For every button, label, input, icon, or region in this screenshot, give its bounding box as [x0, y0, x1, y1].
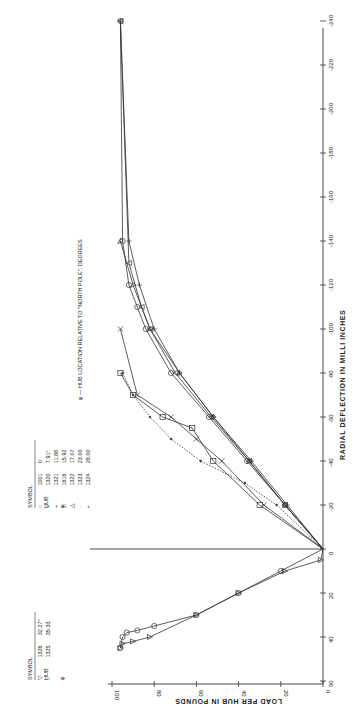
x-tick-label: 60 — [328, 680, 334, 687]
legend-cell: 23.00 — [77, 449, 83, 463]
legend-cell: ⌐ — [85, 505, 91, 508]
x-tick-label: -180 — [328, 146, 334, 159]
series-curve — [120, 549, 323, 648]
dot-marker — [170, 438, 172, 440]
legend-cell: 1321 — [53, 473, 59, 485]
x-tick-label: -40 — [328, 458, 334, 467]
axes — [90, 28, 323, 684]
y-tick-label: 100 — [114, 690, 120, 701]
dot-marker — [244, 482, 246, 484]
x-tick-label: -240 — [328, 14, 334, 27]
legend-cell: 35.33 — [45, 621, 51, 635]
x-tick-label: 20 — [328, 592, 334, 599]
legend-positive-side: SYMBOLHUBφ▽132632.27°○132535.33 — [27, 612, 65, 680]
x-tick-label: 0 — [328, 551, 334, 555]
legend-negative-side: SYMBOLHUBφ○10010×13207.91°+132111.88□161… — [27, 440, 91, 508]
series-curve — [120, 21, 323, 549]
legend-cell: 7.91° — [45, 450, 51, 463]
legend-cell: △ — [69, 503, 75, 508]
x-marker — [118, 326, 123, 331]
x-tick-label: -100 — [328, 322, 334, 335]
series-curve — [123, 373, 323, 549]
x-tick-label: -60 — [328, 414, 334, 423]
y-tick-label: 80 — [156, 690, 162, 697]
series-curve — [120, 549, 323, 648]
x-tick-label: -220 — [328, 58, 334, 71]
legend-cell: ○ — [37, 505, 43, 508]
x-tick-label: -80 — [328, 370, 334, 379]
x-tick-label: -140 — [328, 234, 334, 247]
plus-marker — [126, 238, 131, 243]
legend-cell: 1323 — [77, 473, 83, 485]
legend-cell: 1326 — [37, 645, 43, 657]
x-marker — [194, 436, 199, 441]
legend-cell: 1616 — [61, 473, 67, 485]
y-tick-label: 60 — [198, 690, 204, 697]
legend-cell: 1320 — [45, 473, 51, 485]
legend-cell: 1001 — [37, 473, 43, 485]
dot-marker — [132, 394, 134, 396]
legend-cell: + — [53, 505, 59, 508]
dot-marker — [276, 504, 278, 506]
legend-header: SYMBOL — [27, 657, 33, 680]
y-axis-label: LOAD PER HUB IN POUNDS — [175, 698, 282, 705]
phi-annotation: φ — HUB LOCATION RELATIVE TO "NORTH POLE… — [77, 239, 83, 400]
dot-marker — [122, 372, 124, 374]
load-deflection-chart: -240-220-200-180-160-140-120-100-80-60-4… — [0, 0, 357, 714]
legend-cell: 28.00 — [85, 449, 91, 463]
legend-cell: 1322 — [69, 473, 75, 485]
x-tick-label: 40 — [328, 636, 334, 643]
legend-header: SYMBOL — [27, 485, 33, 508]
legend-cell: 1324 — [85, 473, 91, 485]
legend-cell: 32.27° — [37, 619, 43, 635]
series-curve — [120, 21, 323, 549]
legend-cell: · — [77, 506, 83, 508]
series-curve — [120, 21, 323, 549]
legend-cell: × — [45, 505, 51, 508]
deflection-ticks: -240-220-200-180-160-140-120-100-80-60-4… — [320, 14, 334, 687]
legend-cell: 15.92 — [61, 449, 67, 463]
series-curve — [120, 241, 323, 549]
legend-cell: ▽ — [37, 675, 43, 680]
legend-cell: ○ — [45, 677, 51, 680]
legend-cell: 1325 — [45, 645, 51, 657]
series-curve — [120, 329, 323, 549]
dot-marker — [200, 460, 202, 462]
legend-cell: 11.88 — [53, 450, 59, 463]
dot-marker — [149, 416, 151, 418]
plus-marker — [137, 282, 142, 287]
y-tick-label: 20 — [283, 690, 289, 697]
y-tick-label: 40 — [241, 690, 247, 697]
y-tick-label: 0 — [325, 690, 331, 694]
x-tick-label: -20 — [328, 502, 334, 511]
legend-cell: 0 — [37, 460, 43, 463]
x-marker — [219, 458, 224, 463]
x-axis-label: RADIAL DEFLECTION IN MILLI INCHES — [339, 310, 346, 460]
x-marker — [168, 414, 173, 419]
legend-cell: 17.07 — [69, 449, 75, 463]
legend-header: φ — [59, 676, 65, 680]
x-tick-label: -120 — [328, 278, 334, 291]
data-curves — [120, 21, 323, 648]
x-tick-label: -200 — [328, 102, 334, 115]
x-tick-label: -160 — [328, 190, 334, 203]
